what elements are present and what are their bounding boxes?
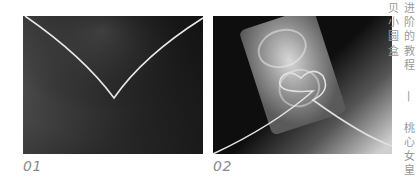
step-02-photo (213, 16, 392, 154)
vertical-section-title: 进阶的教程 | 桃心女皇贝小圆盒 (400, 2, 416, 192)
step-number-01: 01 (23, 158, 42, 174)
wire-v-bend-image (23, 16, 203, 154)
step-number-02: 02 (213, 158, 232, 174)
heart-wire-on-shell-image (213, 16, 392, 154)
step-01-photo (23, 16, 203, 154)
